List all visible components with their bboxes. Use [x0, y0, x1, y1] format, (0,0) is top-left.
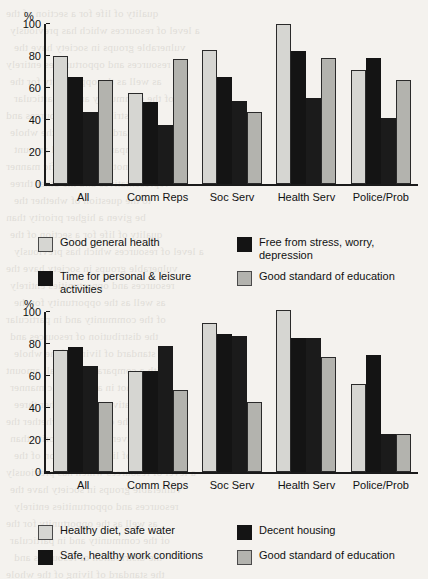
legend-label: Healthy diet, safe water — [60, 524, 175, 537]
bar-group-bottom: Soc Serv — [195, 312, 269, 472]
bar-top — [396, 80, 411, 184]
bar-group-bottom: Police/Prob — [344, 312, 418, 472]
bar-bottom — [351, 384, 366, 472]
bar-top — [247, 112, 262, 184]
y-axis-tick-80-bottom: 80 — [29, 338, 46, 350]
x-axis-label-top: Police/Prob — [344, 191, 418, 203]
legend-swatch-icon — [237, 550, 252, 565]
x-axis-label-top: Comm Reps — [120, 191, 194, 203]
y-axis-tick-80-top: 80 — [29, 50, 46, 62]
bar-bottom — [143, 371, 158, 472]
plot-area-bottom: 100806040200AllComm RepsSoc ServHealth S… — [44, 312, 418, 474]
bar-bottom — [232, 336, 247, 472]
bar-bottom — [83, 366, 98, 472]
bar-top — [173, 59, 188, 184]
bar-group-top: Health Serv — [269, 24, 343, 184]
legend-swatch-icon — [38, 550, 53, 565]
y-axis-tick-40-bottom: 40 — [29, 402, 46, 414]
bar-top — [381, 118, 396, 184]
chart-top-figure: % 100806040200AllComm RepsSoc ServHealth… — [0, 4, 428, 290]
legend-label: Free from stress, worry, depression — [259, 236, 420, 261]
legend-item-bottom: Good standard of education — [229, 549, 420, 565]
bar-top — [306, 98, 321, 184]
bar-top — [217, 77, 232, 184]
legend-swatch-icon — [237, 237, 252, 252]
bar-bottom — [276, 310, 291, 472]
bar-top — [143, 102, 158, 184]
bar-bottom — [158, 346, 173, 472]
legend-swatch-icon — [237, 271, 252, 286]
bar-top — [202, 50, 217, 184]
bar-bottom — [68, 347, 83, 472]
legend-swatch-icon — [237, 525, 252, 540]
legend-label: Good standard of education — [259, 270, 395, 283]
x-axis-label-bottom: Police/Prob — [344, 479, 418, 491]
bar-top — [232, 101, 247, 184]
bar-bottom — [98, 402, 113, 472]
bar-top — [98, 80, 113, 184]
bar-top — [276, 24, 291, 184]
y-axis-tick-20-bottom: 20 — [29, 434, 46, 446]
legend-label: Decent housing — [259, 524, 335, 537]
legend-label: Safe, healthy work conditions — [60, 549, 203, 562]
plot-area-top: 100806040200AllComm RepsSoc ServHealth S… — [44, 24, 418, 186]
bar-group-top: Soc Serv — [195, 24, 269, 184]
legend-item-bottom: Healthy diet, safe water — [38, 524, 229, 540]
bar-bottom — [202, 323, 217, 472]
bar-bottom — [173, 390, 188, 472]
bar-groups-top: AllComm RepsSoc ServHealth ServPolice/Pr… — [46, 24, 418, 184]
bar-group-top: All — [46, 24, 120, 184]
bar-bottom — [321, 357, 336, 472]
bar-group-top: Comm Reps — [120, 24, 194, 184]
legend-bottom: Healthy diet, safe waterDecent housingSa… — [38, 524, 420, 574]
y-axis-tick-0-bottom: 0 — [35, 466, 46, 478]
bar-top — [321, 58, 336, 184]
bar-top — [53, 56, 68, 184]
x-axis-label-bottom: Comm Reps — [120, 479, 194, 491]
y-axis-tick-60-top: 60 — [29, 82, 46, 94]
bar-top — [291, 51, 306, 184]
legend-item-top: Good general health — [38, 236, 229, 261]
bar-group-top: Police/Prob — [344, 24, 418, 184]
y-axis-tick-60-bottom: 60 — [29, 370, 46, 382]
bar-top — [68, 77, 83, 184]
x-axis-label-bottom: Health Serv — [269, 479, 343, 491]
legend-label: Good general health — [60, 236, 160, 249]
y-axis-tick-100-top: 100 — [23, 18, 46, 30]
x-axis-label-top: Soc Serv — [195, 191, 269, 203]
bar-top — [128, 93, 143, 184]
legend-swatch-icon — [38, 271, 53, 286]
bar-group-bottom: Health Serv — [269, 312, 343, 472]
x-axis-label-top: Health Serv — [269, 191, 343, 203]
chart-bottom-figure: % 100806040200AllComm RepsSoc ServHealth… — [0, 292, 428, 579]
legend-item-bottom: Decent housing — [229, 524, 420, 540]
bar-group-bottom: Comm Reps — [120, 312, 194, 472]
legend-swatch-icon — [38, 237, 53, 252]
bar-bottom — [291, 338, 306, 472]
bar-bottom — [53, 350, 68, 472]
y-axis-tick-100-bottom: 100 — [23, 306, 46, 318]
bar-top — [158, 125, 173, 184]
x-axis-label-bottom: Soc Serv — [195, 479, 269, 491]
bar-bottom — [306, 338, 321, 472]
bar-group-bottom: All — [46, 312, 120, 472]
bar-top — [83, 112, 98, 184]
legend-item-top: Free from stress, worry, depression — [229, 236, 420, 261]
y-axis-tick-20-top: 20 — [29, 146, 46, 158]
legend-item-bottom: Safe, healthy work conditions — [38, 549, 229, 565]
bar-bottom — [381, 434, 396, 472]
legend-swatch-icon — [38, 525, 53, 540]
y-axis-tick-0-top: 0 — [35, 178, 46, 190]
x-axis-label-bottom: All — [46, 479, 120, 491]
bar-bottom — [217, 334, 232, 472]
bar-bottom — [128, 371, 143, 472]
bar-groups-bottom: AllComm RepsSoc ServHealth ServPolice/Pr… — [46, 312, 418, 472]
bar-bottom — [396, 434, 411, 472]
bar-top — [351, 70, 366, 184]
bar-bottom — [247, 402, 262, 472]
legend-label: Good standard of education — [259, 549, 395, 562]
y-axis-tick-40-top: 40 — [29, 114, 46, 126]
bar-bottom — [366, 355, 381, 472]
x-axis-label-top: All — [46, 191, 120, 203]
bar-top — [366, 58, 381, 184]
